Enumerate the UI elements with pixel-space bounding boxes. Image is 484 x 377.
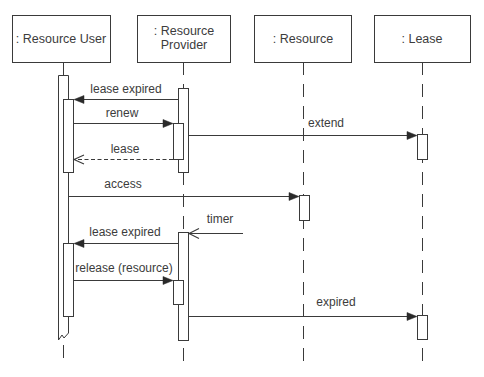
message-label: expired — [316, 295, 355, 309]
filled-arrowhead-icon — [407, 313, 417, 321]
activation-bar-provider-renew — [174, 124, 184, 160]
message-label: lease — [111, 142, 140, 156]
participant-label-line-2: Provider — [161, 38, 208, 52]
participant-resource-provider: : Resource Provider — [138, 16, 231, 63]
activation-bar-lease-expired — [418, 316, 428, 340]
filled-arrowhead-icon — [289, 193, 299, 201]
filled-arrowhead-icon — [74, 240, 84, 248]
message-renew: renew — [74, 106, 173, 128]
activation-bar-resource — [300, 196, 310, 221]
filled-arrowhead-icon — [163, 277, 173, 285]
message-label: extend — [308, 116, 344, 130]
activation-bar-user-release — [64, 244, 74, 317]
filled-arrowhead-icon — [407, 132, 417, 140]
message-label: lease expired — [89, 225, 160, 239]
message-lease-expired-2: lease expired — [74, 225, 178, 248]
message-release-resource: release (resource) — [74, 261, 173, 285]
message-expired: expired — [188, 295, 417, 321]
sequence-diagram: : Resource User : Resource Provider : Re… — [0, 0, 484, 377]
participant-lease: : Lease — [375, 16, 471, 63]
message-lease-expired-1: lease expired — [74, 82, 178, 104]
message-label: lease expired — [90, 82, 161, 96]
message-timer: timer — [189, 212, 243, 239]
message-label: release (resource) — [75, 261, 172, 275]
participant-label: : Resource User — [16, 32, 106, 46]
message-label: renew — [106, 106, 139, 120]
message-label: timer — [207, 212, 234, 226]
participant-label: : Lease — [401, 32, 442, 46]
filled-arrowhead-icon — [74, 96, 84, 104]
message-extend: extend — [188, 116, 417, 140]
message-label: access — [104, 177, 141, 191]
activation-bar-user-renew — [64, 100, 74, 173]
participant-label: : Resource — [273, 32, 333, 46]
participant-label-line-1: : Resource — [154, 24, 214, 38]
filled-arrowhead-icon — [163, 120, 173, 128]
participant-resource-user: : Resource User — [13, 16, 111, 63]
message-lease-return: lease — [74, 142, 173, 164]
activation-bar-provider-release — [174, 281, 184, 305]
activation-bar-lease-extend — [418, 135, 428, 160]
participant-resource: : Resource — [255, 16, 352, 63]
